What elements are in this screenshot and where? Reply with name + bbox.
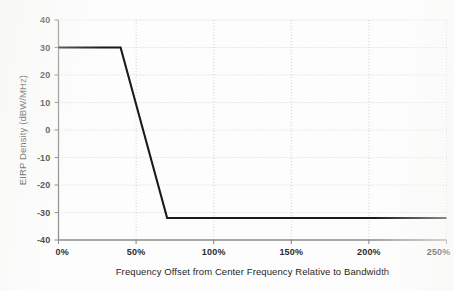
x-tick-label: 250% bbox=[427, 247, 451, 257]
chart-canvas: 403020100-10-20-30-40 0%50%100%150%200%2… bbox=[0, 0, 454, 291]
x-tick-label: 100% bbox=[202, 247, 226, 257]
x-axis-tick-labels: 0%50%100%150%200%250% bbox=[56, 247, 451, 257]
vertical-gridlines bbox=[136, 20, 446, 240]
y-tick-label: -40 bbox=[37, 235, 51, 245]
y-tick-label: -20 bbox=[37, 180, 51, 190]
y-tick-label: 30 bbox=[40, 43, 50, 53]
x-tick-label: 50% bbox=[127, 247, 146, 257]
x-tick-label: 0% bbox=[56, 247, 69, 257]
y-tick-label: -10 bbox=[37, 153, 51, 163]
series-line-eirp-mask bbox=[59, 48, 447, 219]
axis-lines bbox=[59, 20, 447, 240]
horizontal-gridlines bbox=[59, 20, 447, 213]
y-tick-label: 0 bbox=[45, 125, 50, 135]
y-tick-label: 40 bbox=[40, 15, 50, 25]
chart-figure: 403020100-10-20-30-40 0%50%100%150%200%2… bbox=[0, 0, 454, 291]
y-axis-title: EIRP Density (dBW/MHz) bbox=[17, 75, 28, 185]
x-axis-title: Frequency Offset from Center Frequency R… bbox=[116, 266, 390, 277]
x-tick-label: 150% bbox=[279, 247, 303, 257]
y-axis-tick-labels: 403020100-10-20-30-40 bbox=[37, 15, 51, 245]
y-tick-label: -30 bbox=[37, 208, 51, 218]
x-tick-label: 200% bbox=[357, 247, 381, 257]
data-series-group bbox=[59, 48, 447, 219]
y-tick-label: 10 bbox=[40, 98, 50, 108]
y-tick-label: 20 bbox=[40, 70, 50, 80]
